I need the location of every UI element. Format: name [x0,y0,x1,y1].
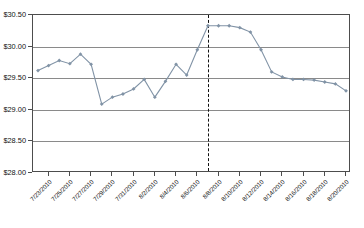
x-axis-tick-mark [281,172,282,176]
data-point-marker [36,69,40,73]
y-axis-tick-label: $28.50 [3,136,26,145]
plot-area [32,14,350,172]
data-point-marker [302,78,306,82]
y-axis-tick-label: $30.50 [3,10,26,19]
data-series-line [33,15,351,173]
data-point-marker [195,48,199,52]
x-axis-tick-mark [69,172,70,176]
data-point-marker [312,78,316,82]
data-point-marker [57,59,61,63]
data-point-marker [227,24,231,28]
data-point-marker [323,80,327,84]
y-axis-tick-mark [28,172,32,173]
y-axis-tick-label: $29.00 [3,104,26,113]
series-polyline [38,26,346,104]
x-axis-tick-mark [260,172,261,176]
x-axis-tick-mark [111,172,112,176]
data-point-marker [238,26,242,30]
data-point-marker [217,24,221,28]
data-point-marker [206,24,210,28]
x-axis-tick-mark [324,172,325,176]
data-point-marker [270,70,274,74]
x-axis-tick-mark [133,172,134,176]
x-axis-tick-mark [196,172,197,176]
x-axis-tick-mark [48,172,49,176]
data-point-marker [280,75,284,79]
data-point-marker [47,64,51,68]
y-axis-tick-label: $29.50 [3,73,26,82]
line-chart: $28.00$28.50$29.00$29.50$30.00$30.50 7/2… [0,0,364,228]
x-axis-tick-mark [239,172,240,176]
x-axis-tick-mark [345,172,346,176]
x-axis-tick-mark [175,172,176,176]
x-axis-tick-mark [218,172,219,176]
data-point-marker [291,78,295,82]
x-axis-tick-mark [303,172,304,176]
data-point-marker [121,92,125,96]
y-axis-tick-label: $28.00 [3,168,26,177]
x-axis-tick-mark [154,172,155,176]
y-axis-tick-label: $30.00 [3,41,26,50]
x-axis-tick-mark [90,172,91,176]
